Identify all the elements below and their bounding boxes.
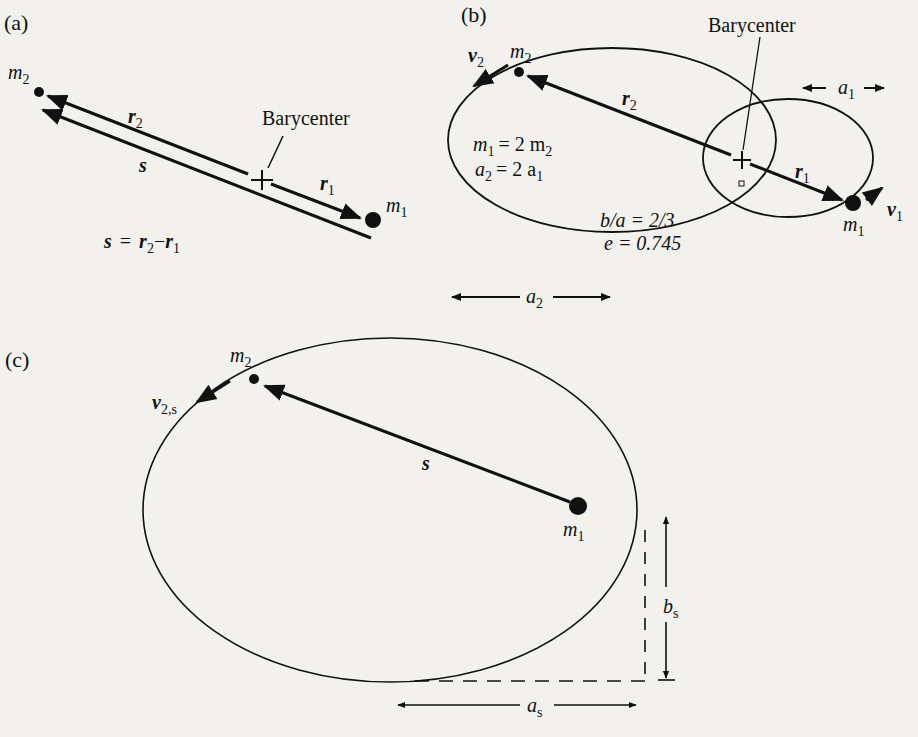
b-m1-mass — [845, 195, 861, 211]
b-m2-mass — [514, 67, 524, 77]
a-m1-mass — [365, 212, 381, 228]
a-s-label: s — [138, 154, 147, 176]
show-through-text — [0, 0, 918, 737]
orbit-figure: (a) m2 Barycenter r2 s r1 m1 s=r2−r1 (b) — [0, 0, 918, 737]
panel-b-label: (b) — [461, 2, 487, 27]
panel-c-label: (c) — [5, 347, 29, 372]
a-barycenter-label: Barycenter — [262, 107, 350, 130]
b-axis-ratio: b/a = 2/3 — [600, 209, 675, 231]
b-eccentricity: e = 0.745 — [604, 232, 681, 254]
panel-a-label: (a) — [4, 10, 28, 35]
c-m2-mass — [249, 374, 259, 384]
c-s-label: s — [421, 452, 430, 474]
c-m1-mass — [569, 497, 587, 515]
b-barycenter-label: Barycenter — [708, 14, 796, 37]
a-m2-mass — [34, 87, 44, 97]
